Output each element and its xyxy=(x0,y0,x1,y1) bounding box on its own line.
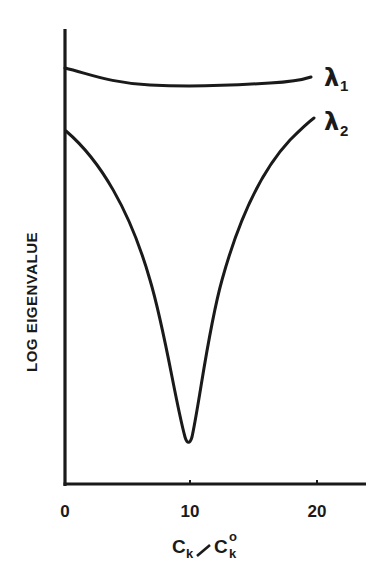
svg-text:1: 1 xyxy=(340,77,348,94)
svg-text:λ: λ xyxy=(324,108,339,136)
svg-text:C: C xyxy=(214,536,228,557)
svg-text:o: o xyxy=(229,529,237,544)
svg-text:λ: λ xyxy=(324,64,339,92)
x-tick-label-10: 10 xyxy=(181,502,200,521)
svg-text:k: k xyxy=(186,546,194,561)
y-axis-title: LOG EIGENVALUE xyxy=(23,232,40,372)
x-axis-title-slash xyxy=(197,545,210,556)
svg-text:C: C xyxy=(172,536,186,557)
x-tick-label-0: 0 xyxy=(60,502,69,521)
series-lambda2-curve xyxy=(66,118,314,442)
x-axis-title: C k C k o xyxy=(172,529,237,561)
svg-text:2: 2 xyxy=(340,122,348,139)
series-lambda1-curve xyxy=(65,68,311,86)
series-label-lambda2: λ 2 xyxy=(324,108,348,139)
svg-text:k: k xyxy=(229,546,237,561)
series-label-lambda1: λ 1 xyxy=(324,64,348,94)
eigenvalue-chart: 0 10 20 C k C k o LOG EIGENVALUE λ 1 λ 2 xyxy=(0,0,386,573)
x-tick-label-20: 20 xyxy=(308,502,327,521)
